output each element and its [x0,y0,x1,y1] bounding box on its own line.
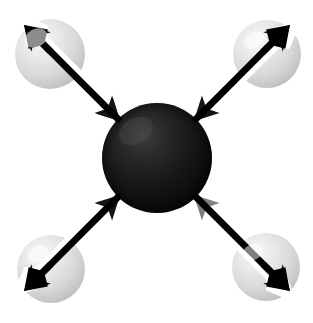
diagram-canvas: Tetrahedral molecule symmetric stretch v… [0,0,313,323]
molecular-diagram-figure: Tetrahedral molecule symmetric stretch v… [0,0,313,323]
